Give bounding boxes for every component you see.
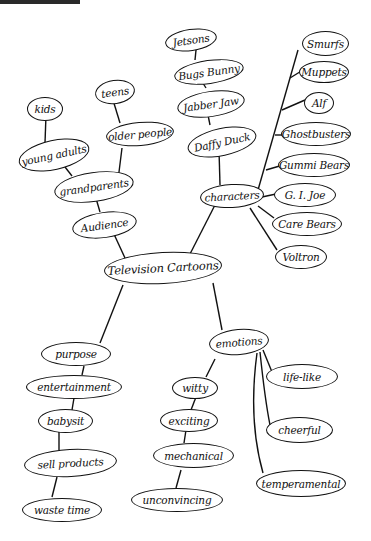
node-purpose: purpose: [41, 342, 111, 366]
node-witty: witty: [172, 377, 218, 399]
node-cheerful: cheerful: [266, 417, 333, 443]
node-unconvincing: unconvincing: [131, 488, 223, 512]
node-exciting: exciting: [160, 409, 218, 432]
node-kids: kids: [27, 97, 63, 121]
node-life-like: life-like: [266, 364, 338, 389]
node-entertainment: entertainment: [26, 375, 122, 399]
node-smurfs: Smurfs: [302, 31, 349, 56]
node-label: Television Cartoons: [107, 258, 219, 278]
node-care-bears: Care Bears: [272, 212, 342, 236]
node-alf: Alf: [304, 92, 334, 114]
node-muppets: Muppets: [299, 61, 349, 83]
node-temperamental: temperamental: [256, 470, 346, 497]
node-waste-time: waste time: [22, 498, 102, 522]
node-ghostbusters: Ghostbusters: [281, 122, 351, 146]
node-gi-joe: G. I. Joe: [274, 183, 336, 207]
node-voltron: Voltron: [275, 245, 327, 269]
node-mechanical: mechanical: [153, 443, 234, 468]
node-gummi-bears: Gummi Bears: [278, 153, 350, 177]
node-babysit: babysit: [38, 409, 93, 433]
